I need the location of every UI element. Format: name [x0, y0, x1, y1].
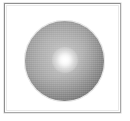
- shaded-sphere: [25, 21, 104, 101]
- sphere-rim-light: [25, 21, 104, 101]
- figure-inner-plate: [6, 5, 119, 111]
- figure-canvas: [0, 0, 130, 121]
- figure-border: [4, 3, 121, 113]
